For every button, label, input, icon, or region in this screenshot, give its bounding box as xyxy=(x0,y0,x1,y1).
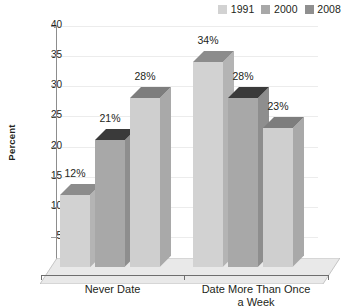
bar-top-face xyxy=(130,87,171,98)
gridline xyxy=(56,56,318,57)
bar-value-label: 12% xyxy=(64,167,85,179)
bar-front-face xyxy=(193,62,223,267)
bar-top-face xyxy=(228,87,269,98)
y-axis-line xyxy=(56,26,57,268)
y-axis-tick-label: 30 xyxy=(36,80,62,90)
bar-value-label: 28% xyxy=(232,70,253,82)
x-axis-category-label: Date More Than Oncea Week xyxy=(184,283,328,307)
bar-2008-1: 28% xyxy=(130,87,160,267)
bar-top-face xyxy=(193,51,234,62)
gridline xyxy=(56,86,318,87)
bar-front-face xyxy=(130,98,160,267)
y-axis-tick-label: 5 xyxy=(36,231,62,241)
x-axis-tick-mark xyxy=(328,275,329,280)
y-axis-tick-label: 10 xyxy=(36,201,62,211)
y-axis-tick-label: 35 xyxy=(36,50,62,60)
x-axis-tick-mark xyxy=(184,275,185,280)
bar-1991-2: 34% xyxy=(193,51,223,267)
bar-value-label: 34% xyxy=(197,34,218,46)
bar-front-face xyxy=(60,195,90,267)
x-axis-tick-mark xyxy=(41,275,42,280)
bar-value-label: 23% xyxy=(267,100,288,112)
y-axis-title: Percent xyxy=(6,115,17,171)
y-axis-tick-label: 15 xyxy=(36,171,62,181)
bar-front-face xyxy=(263,128,293,267)
y-axis-tick-label: 20 xyxy=(36,141,62,151)
bar-value-label: 21% xyxy=(99,112,120,124)
x-axis-category-label: Never Date xyxy=(41,283,184,296)
bar-top-face xyxy=(263,117,304,128)
bar-1991-1: 12% xyxy=(60,184,90,267)
bar-chart: 1991 2000 2008 Percent 0510152025303540 … xyxy=(0,0,345,307)
bar-2000-2: 28% xyxy=(228,87,258,267)
bar-front-face xyxy=(228,98,258,267)
bar-2008-2: 23% xyxy=(263,117,293,267)
bar-side-face xyxy=(160,87,171,267)
bar-side-face xyxy=(293,117,304,267)
bar-front-face xyxy=(95,140,125,267)
y-axis-tick-label: 25 xyxy=(36,110,62,120)
bar-value-label: 28% xyxy=(134,70,155,82)
gridline xyxy=(56,26,318,27)
y-axis-tick-label: 40 xyxy=(36,20,62,30)
bar-2000-1: 21% xyxy=(95,129,125,267)
plot-area: Percent 0510152025303540 12%21%28%34%28%… xyxy=(0,0,345,307)
